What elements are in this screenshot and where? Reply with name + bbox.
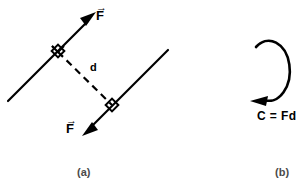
distance-dashed-line: [58, 52, 112, 105]
lower-force-arrowhead: [82, 122, 98, 136]
distance-label: d: [90, 62, 97, 73]
force-vector-label-bottom: → F: [66, 118, 76, 135]
couple-equation-label: C = Fd: [257, 110, 296, 122]
force-vector-label-top: → F: [96, 5, 106, 22]
panel-b-group: [250, 41, 290, 106]
force-couple-figure: → F → F d C = Fd (a) (b): [0, 0, 305, 191]
caption-panel-b: (b): [275, 167, 289, 178]
lower-force-line: [90, 50, 168, 128]
upper-force-vector: [8, 12, 96, 101]
panel-a-group: [8, 12, 168, 136]
rotation-arrowhead: [250, 96, 268, 106]
caption-panel-a: (a): [77, 167, 90, 178]
upper-force-arrowhead: [80, 12, 96, 26]
upper-force-line: [8, 21, 88, 101]
figure-canvas: [0, 0, 305, 191]
rotation-arc: [256, 41, 290, 101]
